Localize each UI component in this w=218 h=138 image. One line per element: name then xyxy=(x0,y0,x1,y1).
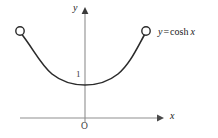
curve-endpoint-right-open-circle xyxy=(142,27,150,35)
origin-label: O xyxy=(81,122,88,132)
curve-equation-label: y=cosh x xyxy=(158,27,195,37)
equation-equals-sign: = xyxy=(162,26,170,37)
cosh-function-graph-figure: y x O 1 y=cosh x xyxy=(0,0,218,138)
y-axis-arrowhead xyxy=(82,7,89,14)
cosh-curve xyxy=(20,32,146,85)
x-axis-arrowhead xyxy=(157,114,164,121)
equation-variable-x: x xyxy=(190,26,194,37)
y-axis-label: y xyxy=(73,3,77,13)
curve-endpoint-left-open-circle xyxy=(16,27,24,35)
x-axis-label: x xyxy=(170,111,174,121)
equation-function-cosh: cosh xyxy=(170,26,188,37)
plot-canvas xyxy=(0,0,218,138)
y-intercept-tick-label: 1 xyxy=(76,70,81,79)
